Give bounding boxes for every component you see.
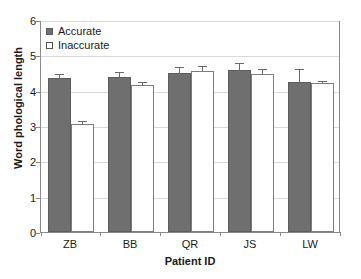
bar-qr-inaccurate[interactable] — [191, 71, 214, 232]
y-tick-label: 0 — [18, 228, 36, 238]
x-tick-label-lw: LW — [280, 238, 340, 250]
error-bar-cap — [138, 82, 147, 83]
x-tick-mark — [41, 232, 42, 236]
error-bar-cap — [175, 67, 184, 68]
bar-js-accurate[interactable] — [228, 70, 251, 232]
bar-slot — [311, 20, 334, 232]
y-tick-label: 6 — [18, 16, 36, 26]
error-bar-cap — [198, 66, 207, 67]
error-bar-cap — [235, 63, 244, 64]
y-tick-label: 2 — [18, 157, 36, 167]
legend-item-inaccurate[interactable]: Inaccurate — [46, 39, 109, 52]
error-bar-cap — [55, 74, 64, 75]
x-tick-mark — [220, 232, 221, 236]
chart-legend: AccurateInaccurate — [46, 25, 109, 53]
x-tick-mark — [340, 232, 341, 236]
legend-item-accurate[interactable]: Accurate — [46, 25, 109, 38]
bar-slot — [131, 20, 154, 232]
bar-bb-accurate[interactable] — [108, 77, 131, 232]
bar-slot — [251, 20, 274, 232]
x-tick-mark — [160, 232, 161, 236]
bar-slot — [228, 20, 251, 232]
error-bar — [299, 69, 300, 84]
error-bar-cap — [78, 121, 87, 122]
bar-slot — [288, 20, 311, 232]
bar-qr-accurate[interactable] — [168, 73, 191, 232]
y-tick-label: 5 — [18, 51, 36, 61]
chart-figure: Word phological length 0123456 ZBBBQRJSL… — [0, 0, 361, 279]
legend-label: Accurate — [58, 25, 101, 38]
bar-js-inaccurate[interactable] — [251, 74, 274, 232]
y-axis-title: Word phological length — [10, 0, 26, 218]
bar-lw-accurate[interactable] — [288, 82, 311, 232]
error-bar-cap — [115, 72, 124, 73]
bar-group — [281, 21, 341, 232]
x-tick-mark — [100, 232, 101, 236]
error-bar — [239, 63, 240, 71]
y-tick-mark — [36, 233, 40, 234]
x-axis-title: Patient ID — [40, 255, 340, 268]
bar-zb-accurate[interactable] — [48, 78, 71, 232]
bar-slot — [168, 20, 191, 232]
y-tick-label: 4 — [18, 87, 36, 97]
bar-group — [101, 21, 161, 232]
error-bar-cap — [258, 69, 267, 70]
legend-label: Inaccurate — [58, 39, 109, 52]
bar-zb-inaccurate[interactable] — [71, 124, 94, 232]
x-tick-label-qr: QR — [160, 238, 220, 250]
bar-group — [221, 21, 281, 232]
bar-lw-inaccurate[interactable] — [311, 83, 334, 232]
legend-swatch-icon — [46, 28, 53, 35]
bar-slot — [108, 20, 131, 232]
y-tick-label: 1 — [18, 193, 36, 203]
x-tick-mark — [280, 232, 281, 236]
legend-swatch-icon — [46, 42, 53, 49]
error-bar — [179, 67, 180, 74]
bar-slot — [191, 20, 214, 232]
x-tick-label-bb: BB — [100, 238, 160, 250]
x-tick-label-zb: ZB — [40, 238, 100, 250]
bar-group — [161, 21, 221, 232]
y-tick-label: 3 — [18, 122, 36, 132]
x-tick-label-js: JS — [220, 238, 280, 250]
error-bar-cap — [295, 69, 304, 70]
bar-bb-inaccurate[interactable] — [131, 85, 154, 232]
error-bar-cap — [318, 81, 327, 82]
